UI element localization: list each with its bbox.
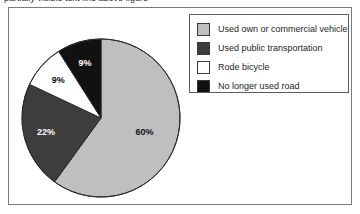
chart-legend: Used own or commercial vehicle Used publ…	[189, 14, 349, 93]
legend-swatch-icon	[197, 61, 210, 74]
chart-screenshot: partially visible text line above figure…	[0, 0, 360, 214]
legend-item-no-longer-used-road: No longer used road	[190, 77, 348, 93]
legend-swatch-icon	[197, 23, 210, 36]
legend-item-label: Rode bicycle	[218, 62, 270, 73]
pie-slice-value-label: 22%	[37, 127, 55, 137]
pie-slices	[22, 39, 180, 197]
legend-item-rode-bicycle: Rode bicycle	[190, 58, 348, 77]
legend-item-label: Used public transportation	[218, 43, 323, 54]
figure-frame: 60%22%9%9% Used own or commercial vehicl…	[8, 7, 352, 205]
legend-item-label: Used own or commercial vehicle	[218, 24, 348, 35]
legend-swatch-icon	[197, 80, 210, 93]
pie-slice-value-label: 9%	[52, 75, 65, 85]
legend-item-label: No longer used road	[218, 81, 300, 92]
pie-slice-value-label: 9%	[79, 58, 92, 68]
legend-swatch-icon	[197, 42, 210, 55]
legend-item-used-own-or-commercial-vehicle: Used own or commercial vehicle	[190, 20, 348, 39]
pie-chart-svg: 60%22%9%9%	[19, 36, 184, 201]
cut-off-caption-text: partially visible text line above figure	[0, 0, 360, 3]
pie-chart: 60%22%9%9%	[19, 36, 184, 201]
pie-slice-value-label: 60%	[136, 127, 154, 137]
cut-off-caption-line: partially visible text line above figure	[0, 0, 360, 4]
legend-item-used-public-transportation: Used public transportation	[190, 39, 348, 58]
